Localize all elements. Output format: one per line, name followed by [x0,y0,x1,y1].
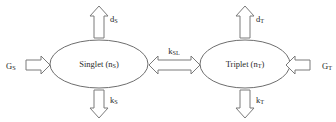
interconversion-label: kSL [168,46,180,56]
loss-singlet-arrow-icon [90,90,108,118]
kinetic-diagram: Singlet (nS) Triplet (nT) GS GT dS dT [0,0,336,122]
interconversion-subscript: SL [173,49,180,56]
decay-singlet-subscript: S [114,17,118,24]
generation-singlet-label: GS [6,61,16,71]
diagram-canvas: Singlet (nS) Triplet (nT) GS GT dS dT [0,0,336,122]
node-triplet-label-suffix: ) [261,59,264,69]
node-triplet-label-prefix: Triplet (n [226,59,259,69]
generation-singlet-arrow-icon [26,56,50,74]
node-singlet-label-suffix: ) [116,59,119,69]
generation-singlet-subscript: S [12,64,16,71]
decay-singlet-label: dS [110,14,118,24]
decay-triplet-label: dT [256,14,264,24]
interconversion-arrow-icon [149,56,200,74]
loss-triplet-label: kT [256,95,264,105]
generation-triplet-label: GT [322,61,332,71]
generation-triplet-subscript: T [328,64,332,71]
loss-singlet-label: kS [110,95,118,105]
generation-triplet-arrow-icon [286,56,310,74]
loss-triplet-subscript: T [260,98,264,105]
decay-singlet-arrow-icon [90,6,108,38]
node-singlet-label-prefix: Singlet (n [79,59,113,69]
loss-triplet-arrow-icon [236,90,254,118]
decay-triplet-subscript: T [260,17,264,24]
loss-singlet-subscript: S [114,98,118,105]
decay-triplet-arrow-icon [236,6,254,38]
